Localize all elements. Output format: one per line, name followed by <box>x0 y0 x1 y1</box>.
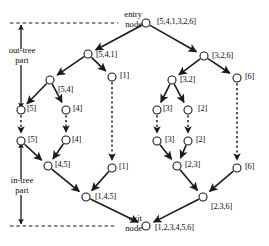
node-label-n_2_in: [2] <box>196 136 205 145</box>
edge-n_32-to-n_2_out <box>174 84 184 102</box>
exit-node-label: exit node <box>100 214 142 233</box>
edge-n_1_bot-to-n_145 <box>92 172 109 191</box>
edge-n_3_in-to-n_23 <box>160 145 172 160</box>
entry-node-label: entry node <box>100 10 142 29</box>
node-label-n_326: [3,2,6] <box>212 52 233 61</box>
exit-node-label-line1: exit <box>129 213 142 223</box>
node-label-entry: [5,4,1,3,2,6] <box>157 18 196 27</box>
node-n_3_in[interactable] <box>153 137 161 145</box>
in-tree-part-label: in-tree part <box>0 176 44 195</box>
node-label-n_3_out: [3] <box>163 105 172 114</box>
out-tree-label-line1: out-tree <box>9 45 36 55</box>
node-exit[interactable] <box>142 222 150 230</box>
out-tree-part-label: out-tree part <box>0 46 44 65</box>
node-label-exit: [1,2,3,4,5,6] <box>155 224 194 233</box>
node-n_2_out[interactable] <box>184 106 192 114</box>
edge-n_4_in-to-n_45 <box>53 144 63 159</box>
node-label-n_541: [5,4,1] <box>96 51 117 60</box>
node-n_236[interactable] <box>199 193 207 201</box>
diagram-canvas: [5,4,1,3,2,6][5,4,1][3,2,6][5,4][1][3,2]… <box>0 0 269 246</box>
node-label-n_236: [2,3,6] <box>211 203 232 212</box>
node-n_326[interactable] <box>200 52 208 60</box>
node-n_2_in[interactable] <box>184 137 192 145</box>
edge-entry-to-n_326 <box>150 25 196 51</box>
edge-n_6_bot-to-n_236 <box>210 171 234 191</box>
node-label-n_23: [2,3] <box>185 161 200 170</box>
node-n_6_bot[interactable] <box>233 164 241 172</box>
edge-n_326-to-n_6_top <box>208 59 230 74</box>
in-tree-label-line1: in-tree <box>11 175 33 185</box>
entry-node-label-line2: node <box>125 19 142 29</box>
node-label-n_5_out: [5] <box>27 105 36 114</box>
edge-n_54-to-n_5_out <box>27 83 47 103</box>
node-label-n_6_bot: [6] <box>245 163 254 172</box>
node-label-n_54: [5,4] <box>58 86 73 95</box>
node-label-n_4_out: [4] <box>73 105 82 114</box>
node-n_1_bot[interactable] <box>108 164 116 172</box>
node-n_541[interactable] <box>84 50 92 58</box>
node-label-n_32: [3,2] <box>180 76 195 85</box>
edge-n_326-to-n_32 <box>179 59 200 75</box>
edge-n_45-to-n_145 <box>52 169 80 192</box>
node-label-n_5_in: [5] <box>28 136 37 145</box>
node-label-n_45: [4,5] <box>55 161 70 170</box>
edge-n_5_in-to-n_45 <box>25 144 42 160</box>
node-n_6_top[interactable] <box>233 74 241 82</box>
out-tree-label-line2: part <box>15 55 28 65</box>
edge-n_2_in-to-n_23 <box>180 145 186 158</box>
node-n_3_out[interactable] <box>153 106 161 114</box>
nodes-group <box>17 19 241 230</box>
node-n_23[interactable] <box>173 162 181 170</box>
node-n_45[interactable] <box>44 162 52 170</box>
node-n_5_in[interactable] <box>17 137 25 145</box>
node-label-n_4_in: [4] <box>72 136 81 145</box>
node-label-n_145: [1,4,5] <box>95 193 116 202</box>
node-label-n_6_top: [6] <box>245 73 254 82</box>
edge-n_236-to-exit <box>154 199 199 222</box>
node-n_145[interactable] <box>82 193 90 201</box>
node-n_1_top[interactable] <box>108 73 116 81</box>
node-n_54[interactable] <box>46 76 54 84</box>
node-n_5_out[interactable] <box>17 106 25 114</box>
exit-node-label-line2: node <box>125 223 142 233</box>
node-label-n_1_bot: [1] <box>119 163 128 172</box>
node-entry[interactable] <box>142 19 150 27</box>
edge-n_32-to-n_3_out <box>161 84 170 102</box>
node-label-n_2_out: [2] <box>198 105 207 114</box>
in-tree-label-line2: part <box>15 185 28 195</box>
node-n_4_in[interactable] <box>62 136 70 144</box>
dashed-edges-group <box>21 82 237 160</box>
node-label-n_1_top: [1] <box>120 72 129 81</box>
node-label-n_3_in: [3] <box>165 136 174 145</box>
node-n_4_out[interactable] <box>62 106 70 114</box>
node-n_32[interactable] <box>168 76 176 84</box>
edge-n_23-to-n_236 <box>180 170 197 191</box>
edge-n_541-to-n_54 <box>57 57 84 75</box>
entry-node-label-line1: entry <box>124 9 142 19</box>
